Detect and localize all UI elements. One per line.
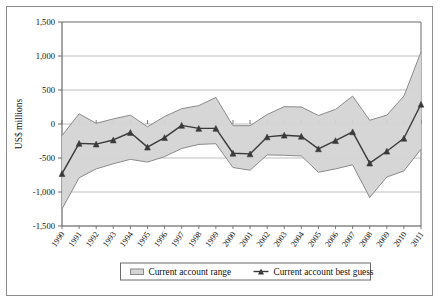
x-tick-label-1996: 1996 [152,230,169,249]
chart-canvas: -1,500-1,000-50005001,0001,5001990199119… [0,0,441,304]
x-tick-label-1995: 1995 [135,230,152,249]
y-tick-label-0: 0 [51,119,55,129]
x-tick-label-1991: 1991 [67,230,84,249]
x-tick-label-1992: 1992 [84,230,101,249]
legend-label-best-guess: Current account best guess [274,267,374,277]
x-tick-label-2009: 2009 [375,230,392,249]
x-tick-label-2010: 2010 [392,230,409,249]
legend-swatch-range [131,269,144,275]
x-tick-label-2007: 2007 [340,230,357,249]
x-tick-label-2008: 2008 [357,230,374,249]
x-tick-label-1994: 1994 [118,229,135,248]
x-tick-label-2003: 2003 [272,230,289,249]
y-axis-title: US$ millions [14,98,24,149]
y-tick-label--500: -500 [39,153,55,163]
x-tick-label-1998: 1998 [187,230,204,249]
y-tick-label--1000: -1,000 [33,187,55,197]
y-tick-label-1000: 1,000 [36,51,55,61]
y-tick-label-1500: 1,500 [36,17,55,27]
x-tick-label-2005: 2005 [306,230,323,249]
x-tick-label-2001: 2001 [238,230,255,249]
y-tick-label-500: 500 [42,85,55,95]
x-tick-label-2002: 2002 [255,230,272,249]
x-tick-label-1997: 1997 [169,230,186,249]
x-tick-label-2006: 2006 [323,230,340,249]
x-tick-label-1990: 1990 [50,230,67,249]
x-tick-label-2011: 2011 [409,230,426,249]
x-tick-label-2004: 2004 [289,229,306,248]
x-tick-label-1993: 1993 [101,230,118,249]
legend-label-range: Current account range [149,267,232,277]
current-account-chart: -1,500-1,000-50005001,0001,5001990199119… [0,0,441,304]
x-tick-label-1999: 1999 [204,230,221,249]
y-tick-label--1500: -1,500 [33,221,55,231]
x-tick-label-2000: 2000 [221,230,238,249]
